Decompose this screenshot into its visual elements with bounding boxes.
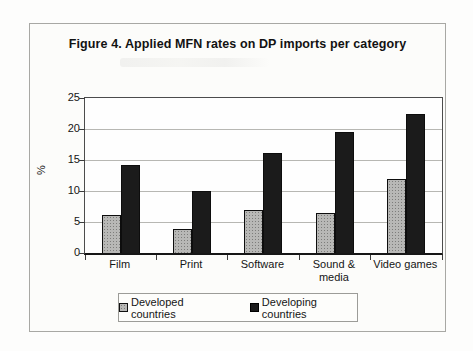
- legend-swatch-icon: [250, 303, 259, 312]
- bar-group-software: [228, 98, 299, 253]
- figure-container: Figure 4. Applied MFN rates on DP import…: [29, 23, 446, 332]
- bar-series1-1: [192, 191, 211, 253]
- bar-series1-2: [263, 153, 282, 253]
- x-category-label: Sound & media: [298, 258, 369, 284]
- bar-series0-2: [244, 210, 263, 253]
- scan-smudge: [120, 58, 270, 67]
- x-category-label: Software: [227, 258, 298, 271]
- bar-group-video-games: [371, 98, 442, 253]
- x-category-label: Video games: [370, 258, 441, 271]
- y-axis-title: %: [35, 165, 47, 175]
- bar-group-film: [85, 98, 156, 253]
- scanned-figure-page: Figure 4. Applied MFN rates on DP import…: [0, 0, 473, 351]
- legend: Developed countriesDeveloping countries: [118, 293, 358, 322]
- x-category-label: Film: [84, 258, 155, 271]
- bar-series1-3: [335, 132, 354, 253]
- bar-series0-4: [387, 179, 406, 253]
- legend-entry-series1: Developing countries: [250, 296, 357, 320]
- legend-entry-series0: Developed countries: [119, 296, 224, 320]
- x-tick-mark: [442, 255, 443, 260]
- x-category-label: Print: [155, 258, 226, 271]
- legend-label: Developing countries: [262, 296, 357, 320]
- bar-series0-0: [102, 215, 121, 253]
- legend-swatch-icon: [119, 303, 128, 312]
- bar-series0-1: [173, 229, 192, 253]
- chart-title: Figure 4. Applied MFN rates on DP import…: [30, 37, 445, 51]
- bar-group-sound-media: [299, 98, 370, 253]
- bar-series1-4: [406, 114, 425, 254]
- bar-group-print: [156, 98, 227, 253]
- bar-series1-0: [121, 165, 140, 253]
- plot-area: [84, 97, 443, 255]
- legend-label: Developed countries: [131, 296, 224, 320]
- y-axis-tick-labels: 0510152025: [48, 97, 80, 252]
- bar-series0-3: [316, 213, 335, 253]
